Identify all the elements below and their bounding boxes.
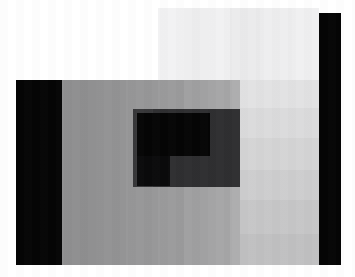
- right-black-bar: [319, 13, 341, 265]
- inner-black-upper: [137, 113, 210, 156]
- left-black-bar: [16, 80, 62, 265]
- top-light-band-e: [260, 8, 292, 80]
- body-gray-band-2: [96, 80, 126, 265]
- top-light-band-c: [208, 8, 230, 80]
- upper-right-light-block-5: [240, 200, 319, 234]
- top-light-band-f: [292, 8, 319, 80]
- top-light-band-d: [230, 8, 260, 80]
- top-light-band-b: [184, 8, 208, 80]
- upper-right-light-block-6: [240, 234, 319, 265]
- upper-right-light-block-4: [240, 170, 319, 200]
- upper-right-light-block-2: [240, 108, 319, 138]
- top-left-white-field: [0, 0, 158, 80]
- upper-right-light-block-3: [240, 138, 319, 170]
- top-light-band-a: [158, 8, 184, 80]
- upper-right-light-block-1: [240, 80, 319, 108]
- body-gray-band-1: [62, 80, 96, 265]
- inner-black-lower-step: [137, 156, 170, 186]
- image-canvas: [0, 0, 355, 277]
